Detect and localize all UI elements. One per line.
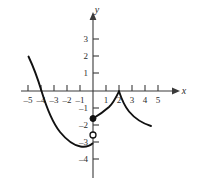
y-axis-label: y: [94, 4, 100, 15]
x-tick-label--2: –2: [62, 95, 72, 105]
y-axis: [90, 12, 97, 178]
x-tick-label-5: 5: [156, 95, 161, 105]
y-tick-label-1: 1: [84, 68, 89, 78]
closed-endpoint-marker: [90, 116, 96, 122]
x-tick-label-3: 3: [130, 95, 135, 105]
y-tick-label--2: –2: [78, 120, 88, 130]
graph-canvas: –5 –4 –3 –2 –1 1 2 3 4 5 3 2 1 –1 –2 –3 …: [0, 0, 198, 192]
x-axis-label: x: [181, 85, 187, 96]
x-tick-label--3: –3: [49, 95, 60, 105]
y-tick-label--4: –4: [78, 154, 89, 164]
y-axis-ticks: [93, 39, 99, 159]
x-tick-label--5: –5: [23, 95, 34, 105]
x-axis: [21, 88, 180, 95]
y-tick-label-2: 2: [84, 51, 89, 61]
y-tick-label-3: 3: [84, 34, 89, 44]
open-endpoint-marker: [90, 132, 96, 138]
y-tick-label--1: –1: [78, 103, 88, 113]
x-tick-label-4: 4: [143, 95, 148, 105]
function-graph-figure: –5 –4 –3 –2 –1 1 2 3 4 5 3 2 1 –1 –2 –3 …: [0, 0, 198, 192]
x-axis-arrow-icon: [172, 88, 180, 95]
x-tick-label-1: 1: [104, 95, 109, 105]
